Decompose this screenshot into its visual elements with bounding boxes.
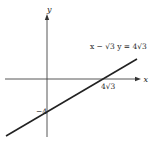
graph-canvas: x y x − √3 y = 4√3 4√3 −4	[0, 0, 149, 143]
y-intercept-label: −4	[36, 107, 47, 116]
x-intercept-label: 4√3	[101, 82, 116, 91]
y-axis-arrow-icon	[45, 14, 49, 20]
graph-line	[6, 59, 137, 136]
line-equation: x − √3 y = 4√3	[90, 42, 147, 51]
x-axis-label: x	[144, 75, 149, 84]
x-axis-arrow-icon	[135, 77, 141, 81]
graph-figure: x y x − √3 y = 4√3 4√3 −4	[0, 0, 149, 143]
y-axis-label: y	[46, 5, 52, 14]
